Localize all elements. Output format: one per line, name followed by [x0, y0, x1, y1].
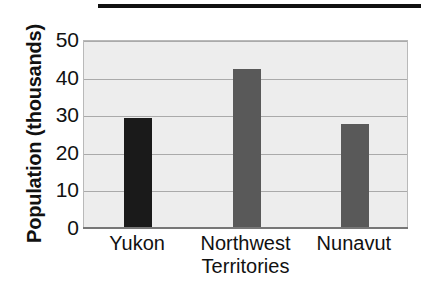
- x-tick-label: Nunavut: [300, 232, 408, 255]
- bar: [124, 118, 152, 227]
- bar: [233, 69, 261, 227]
- x-tick-label-line: Territories: [191, 255, 299, 278]
- bar: [341, 124, 369, 227]
- y-tick-label: 50: [35, 29, 79, 50]
- top-divider-rule: [98, 4, 421, 8]
- y-tick-label: 40: [35, 67, 79, 88]
- y-tick-label: 20: [35, 142, 79, 163]
- y-tick-label: 0: [35, 217, 79, 238]
- y-axis-tick-labels: 50403020100: [31, 0, 79, 306]
- x-tick-label: NorthwestTerritories: [191, 232, 299, 278]
- y-tick-label: 30: [35, 104, 79, 125]
- x-axis-category-labels: YukonNorthwestTerritoriesNunavut: [83, 232, 408, 306]
- x-tick-label-line: Nunavut: [300, 232, 408, 255]
- gridline: [84, 41, 407, 42]
- x-tick-label: Yukon: [83, 232, 191, 255]
- x-tick-label-line: Northwest: [191, 232, 299, 255]
- x-axis-baseline: [83, 227, 408, 229]
- plot-area: [83, 40, 408, 228]
- y-tick-label: 10: [35, 179, 79, 200]
- bar-chart-figure: Population (thousands) 50403020100 Yukon…: [0, 0, 421, 306]
- x-tick-label-line: Yukon: [83, 232, 191, 255]
